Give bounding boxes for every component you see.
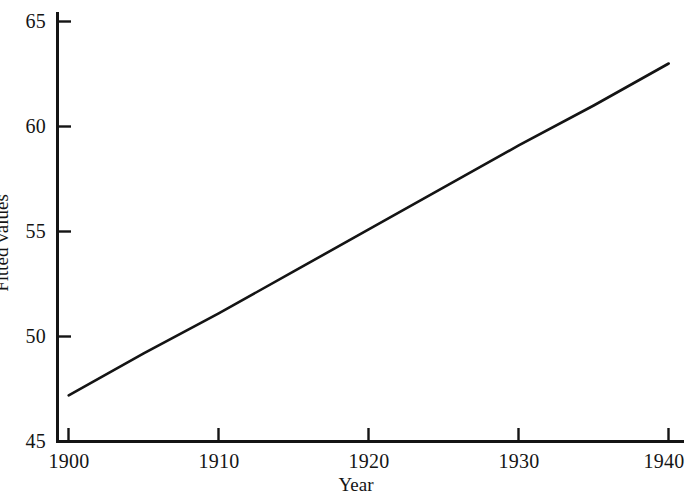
y-tick-label-60: 60 (10, 115, 46, 138)
y-axis-ticks (58, 22, 71, 442)
y-tick-label-50: 50 (10, 325, 46, 348)
x-tick-label-1940: 1940 (644, 450, 685, 473)
line-chart-canvas (0, 0, 689, 500)
y-tick-label-65: 65 (10, 10, 46, 33)
x-axis-ticks (69, 428, 669, 441)
fitted-values-line (69, 64, 669, 396)
x-tick-label-1900: 1900 (49, 450, 90, 473)
y-tick-label-45: 45 (10, 430, 46, 453)
chart-figure: 65 60 55 50 45 1900 1910 1920 1930 1940 … (0, 0, 689, 500)
x-tick-label-1910: 1910 (199, 450, 240, 473)
y-axis-title: Fitted values (0, 194, 13, 292)
x-axis-title: Year (338, 474, 373, 496)
x-tick-label-1930: 1930 (499, 450, 540, 473)
axis-lines (56, 12, 684, 442)
y-tick-label-55: 55 (10, 220, 46, 243)
x-tick-label-1920: 1920 (349, 450, 390, 473)
